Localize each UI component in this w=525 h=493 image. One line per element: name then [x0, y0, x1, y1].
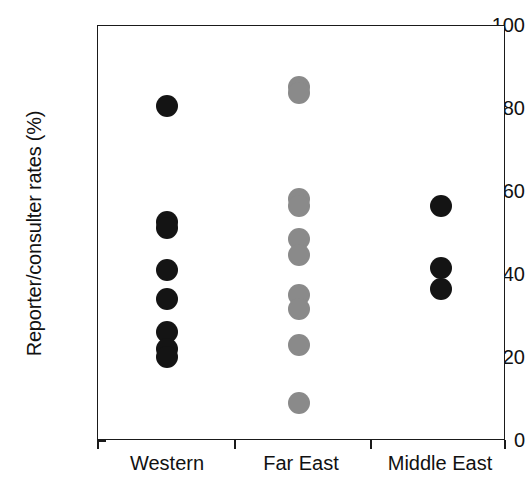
y-axis-title: Reporter/consulter rates (%) — [23, 19, 46, 449]
x-tick-label-middle-east: Middle East — [388, 452, 493, 474]
scatter-plot-figure: Reporter/consulter rates (%) 100 80 60 4… — [0, 0, 525, 493]
x-tick-mark-1 — [234, 440, 236, 449]
x-tick-mark-left — [97, 440, 99, 449]
plot-area — [97, 25, 505, 440]
x-tick-mark-2 — [370, 440, 372, 449]
x-tick-mark-right — [504, 440, 506, 449]
x-tick-label-western: Western — [130, 452, 204, 474]
x-tick-label-far-east: Far East — [263, 452, 339, 474]
